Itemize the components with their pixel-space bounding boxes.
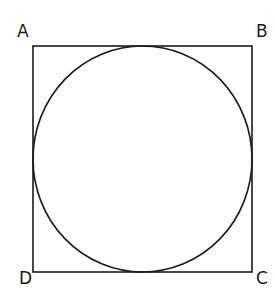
vertex-label-a: A xyxy=(17,21,29,41)
inscribed-circle xyxy=(33,46,252,272)
square-with-inscribed-circle-diagram: A B C D xyxy=(0,0,275,292)
vertex-label-c: C xyxy=(256,268,268,288)
vertex-label-b: B xyxy=(256,21,268,41)
vertex-label-d: D xyxy=(19,268,32,288)
square-abcd xyxy=(33,46,252,272)
